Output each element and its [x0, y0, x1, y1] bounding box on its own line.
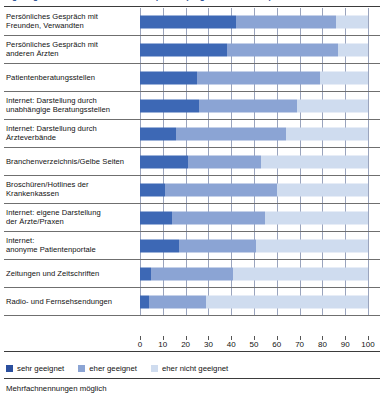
- stacked-bar: [140, 211, 368, 224]
- category-label: Patientenberatungsstellen: [6, 73, 134, 83]
- chart-row: Broschüren/Hotlines derKrankenkassen: [4, 176, 380, 204]
- bar-segment: [188, 155, 261, 168]
- gridline: [368, 64, 369, 91]
- axis-tick-label: 20: [181, 340, 190, 349]
- legend-item-eher-nicht-geeignet: eher nicht geeignet: [151, 364, 228, 373]
- bar-segment: [320, 71, 368, 84]
- legend-swatch-icon: [6, 365, 13, 372]
- plot-area: [140, 176, 368, 203]
- stacked-bar: [140, 267, 368, 280]
- plot-area: [140, 148, 368, 175]
- category-label: Internet:anonyme Patientenportale: [6, 236, 134, 255]
- chart-rows: Persönliches Gespräch mitFreunden, Verwa…: [4, 8, 380, 316]
- bar-segment: [227, 43, 339, 56]
- category-label-line: Persönliches Gespräch mit: [6, 40, 134, 50]
- stacked-bar: [140, 71, 368, 84]
- bar-segment: [140, 295, 149, 308]
- legend-label: eher nicht geeignet: [162, 364, 228, 373]
- gridline: [368, 92, 369, 119]
- category-label: Branchenverzeichnis/Gelbe Seiten: [6, 157, 134, 167]
- chart-row: Internet: eigene Darstellungder Ärzte/Pr…: [4, 204, 380, 232]
- category-label: Radio- und Fernsehsendungen: [6, 297, 134, 307]
- bar-segment: [140, 183, 165, 196]
- category-label-line: Radio- und Fernsehsendungen: [6, 297, 134, 307]
- category-label-line: unabhängige Beratungsstellen: [6, 106, 134, 116]
- chart-row: Persönliches Gespräch mitanderen Ärzten: [4, 36, 380, 64]
- category-label-line: Branchenverzeichnis/Gelbe Seiten: [6, 157, 134, 167]
- legend-label: sehr geeignet: [17, 364, 64, 373]
- gridline: [368, 260, 369, 287]
- axis-tick-label: 90: [341, 340, 350, 349]
- chart-footnote: Mehrfachnennungen möglich: [6, 384, 107, 393]
- stacked-bar: [140, 155, 368, 168]
- plot-area: [140, 204, 368, 231]
- bar-segment: [179, 239, 257, 252]
- bar-segment: [165, 183, 277, 196]
- legend-swatch-icon: [78, 365, 85, 372]
- axis-tick-label: 70: [295, 340, 304, 349]
- bar-segment: [140, 267, 151, 280]
- bar-segment: [297, 99, 368, 112]
- chart-row: Internet:anonyme Patientenportale: [4, 232, 380, 260]
- bar-segment: [140, 15, 236, 28]
- category-label-line: Internet:: [6, 236, 134, 246]
- category-label-line: anonyme Patientenportale: [6, 246, 134, 256]
- gridline: [368, 36, 369, 63]
- plot-area: [140, 36, 368, 63]
- plot-area: [140, 232, 368, 259]
- legend-item-eher-geeignet: eher geeignet: [78, 364, 137, 373]
- chart-row: Internet: Darstellung durchÄrzteverbände: [4, 120, 380, 148]
- axis-tick-label: 30: [204, 340, 213, 349]
- bar-segment: [172, 211, 265, 224]
- bar-segment: [197, 71, 320, 84]
- bar-segment: [140, 99, 199, 112]
- gridline: [368, 8, 369, 35]
- gridline: [368, 232, 369, 259]
- category-label-line: der Ärzte/Praxen: [6, 218, 134, 228]
- category-label-line: Internet: Darstellung durch: [6, 124, 134, 134]
- category-label: Internet: eigene Darstellungder Ärzte/Pr…: [6, 208, 134, 227]
- plot-area: [140, 288, 368, 315]
- bar-segment: [233, 267, 368, 280]
- axis-tick-label: 10: [158, 340, 167, 349]
- bar-segment: [140, 239, 179, 252]
- bar-segment: [140, 127, 176, 140]
- category-label-line: Internet: eigene Darstellung: [6, 208, 134, 218]
- stacked-bar: [140, 239, 368, 252]
- bar-segment: [261, 155, 368, 168]
- bar-segment: [140, 155, 188, 168]
- stacked-bar: [140, 295, 368, 308]
- gridline: [368, 288, 369, 315]
- stacked-bar: [140, 183, 368, 196]
- category-label-line: Internet: Darstellung durch: [6, 96, 134, 106]
- gridline: [368, 120, 369, 147]
- plot-area: [140, 64, 368, 91]
- legend-label: eher geeignet: [89, 364, 137, 373]
- horizontal-stacked-bar-chart: Eignung verschiedener Informationsquelle…: [0, 0, 384, 404]
- plot-area: [140, 120, 368, 147]
- plot-area: [140, 260, 368, 287]
- chart-legend: sehr geeignet eher geeignet eher nicht g…: [6, 364, 228, 373]
- bottom-rule: [4, 378, 380, 379]
- bar-segment: [265, 211, 368, 224]
- legend-item-sehr-geeignet: sehr geeignet: [6, 364, 64, 373]
- axis-tick-label: 0: [138, 340, 142, 349]
- axis-tick-label: 40: [227, 340, 236, 349]
- axis-tick-label: 80: [318, 340, 327, 349]
- chart-row: Zeitungen und Zeitschriften: [4, 260, 380, 288]
- bar-segment: [176, 127, 285, 140]
- category-label-line: Broschüren/Hotlines der: [6, 180, 134, 190]
- chart-row: Branchenverzeichnis/Gelbe Seiten: [4, 148, 380, 176]
- top-rule: [4, 6, 380, 7]
- bar-segment: [140, 211, 172, 224]
- bar-segment: [277, 183, 368, 196]
- bar-segment: [140, 43, 227, 56]
- stacked-bar: [140, 127, 368, 140]
- category-label: Internet: Darstellung durchunabhängige B…: [6, 96, 134, 115]
- bar-segment: [206, 295, 368, 308]
- category-label-line: anderen Ärzten: [6, 50, 134, 60]
- stacked-bar: [140, 15, 368, 28]
- chart-title: Eignung verschiedener Informationsquelle…: [4, 0, 380, 1]
- legend-swatch-icon: [151, 365, 158, 372]
- category-label-line: Krankenkassen: [6, 190, 134, 200]
